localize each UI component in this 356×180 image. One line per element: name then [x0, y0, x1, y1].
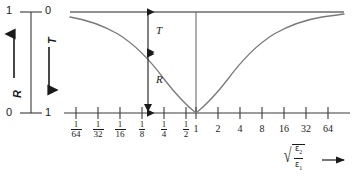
legend-label-transmittance: T — [46, 37, 58, 44]
plot-label-reflectance: R — [156, 74, 163, 85]
legend-axis-bar — [20, 12, 42, 113]
legend-label-reflectance: R — [11, 90, 23, 98]
reflectance-curve — [70, 14, 344, 113]
plot-label-transmittance: T — [156, 25, 162, 36]
x-axis-title: √ ε2 ε1 — [282, 144, 305, 170]
x-tick-label: 64 — [314, 124, 342, 134]
axis-title-numerator: ε2 — [294, 144, 303, 159]
sqrt-icon: √ ε2 ε1 — [282, 144, 305, 170]
reflectance-transmittance-figure: 1 0 0 1 — [0, 0, 356, 180]
down-arrow-marker-icon — [144, 104, 152, 112]
axis-title-denominator: ε1 — [294, 159, 303, 173]
